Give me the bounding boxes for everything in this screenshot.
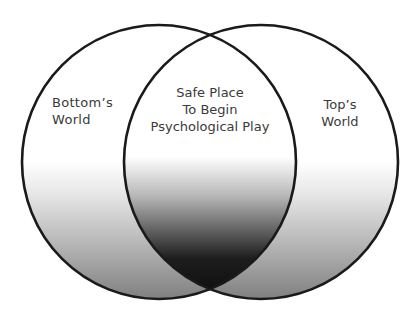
left-set-label-line-2: World [52, 111, 113, 128]
venn-diagram [0, 0, 415, 315]
right-set-label-line-2: World [312, 113, 368, 130]
intersection-label-line-1: Safe Place [150, 84, 270, 101]
intersection-label-line-3: Psychological Play [150, 118, 270, 135]
left-set-label-line-1: Bottom’s [52, 94, 113, 111]
left-set-label: Bottom’s World [52, 94, 113, 128]
intersection-label-line-2: To Begin [150, 101, 270, 118]
intersection-label: Safe Place To Begin Psychological Play [150, 84, 270, 135]
right-set-label-line-1: Top’s [312, 96, 368, 113]
right-set-label: Top’s World [312, 96, 368, 130]
